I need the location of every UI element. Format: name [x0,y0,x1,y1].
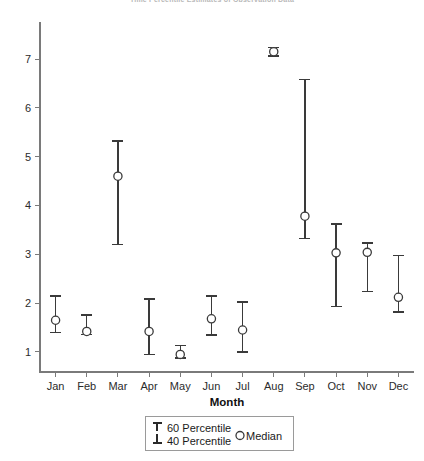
x-tick-label-aug: Aug [264,380,284,392]
median-marker-jan [51,316,59,324]
data-point-may [175,346,186,359]
median-marker-nov [363,248,371,256]
median-marker-oct [332,249,340,257]
y-tick-label-3: 3 [25,248,31,260]
data-point-jan [50,296,61,333]
x-tick-label-nov: Nov [357,380,377,392]
chart-figure: Time Percentile Estimates of Observation… [0,0,424,461]
plot-axes [40,22,414,372]
y-tick-label-4: 4 [25,199,31,211]
data-point-dec [393,255,404,312]
data-point-jun [206,296,217,335]
percentile-plot: 1234567JanFebMarAprMayJunJulAugSepOctNov… [0,0,424,461]
legend-label-p60: 60 Percentile [167,422,231,434]
x-axis-title: Month [210,396,244,408]
median-marker-apr [145,327,153,335]
median-marker-mar [114,172,122,180]
x-tick-label-jul: Jul [236,380,250,392]
median-marker-may [176,350,184,358]
median-marker-dec [394,293,402,301]
data-point-oct [331,224,342,307]
x-tick-label-may: May [170,380,191,392]
data-point-mar [112,141,123,245]
median-marker-sep [301,212,309,220]
median-marker-aug [270,48,278,56]
y-tick-label-1: 1 [25,346,31,358]
x-tick-label-jan: Jan [47,380,65,392]
median-marker-jun [207,315,215,323]
x-tick-label-oct: Oct [328,380,345,392]
x-tick-label-dec: Dec [389,380,409,392]
data-point-sep [299,80,310,239]
y-tick-label-6: 6 [25,102,31,114]
median-marker-jul [238,326,246,334]
data-point-jul [237,302,248,352]
data-point-apr [144,299,155,354]
median-marker-feb [83,327,91,335]
legend-label-median: Median [246,430,282,442]
x-tick-label-jun: Jun [203,380,221,392]
y-tick-label-7: 7 [25,53,31,65]
data-point-nov [362,243,373,291]
y-tick-label-2: 2 [25,297,31,309]
data-point-feb [81,315,92,336]
legend-median-circle-icon [236,432,244,440]
x-tick-label-sep: Sep [295,380,315,392]
data-point-aug [268,47,279,56]
x-tick-label-mar: Mar [108,380,127,392]
chart-legend: 60 Percentile40 PercentileMedian [145,416,293,450]
x-tick-label-feb: Feb [77,380,96,392]
x-tick-label-apr: Apr [141,380,158,392]
y-tick-label-5: 5 [25,151,31,163]
legend-label-p40: 40 Percentile [167,435,231,447]
